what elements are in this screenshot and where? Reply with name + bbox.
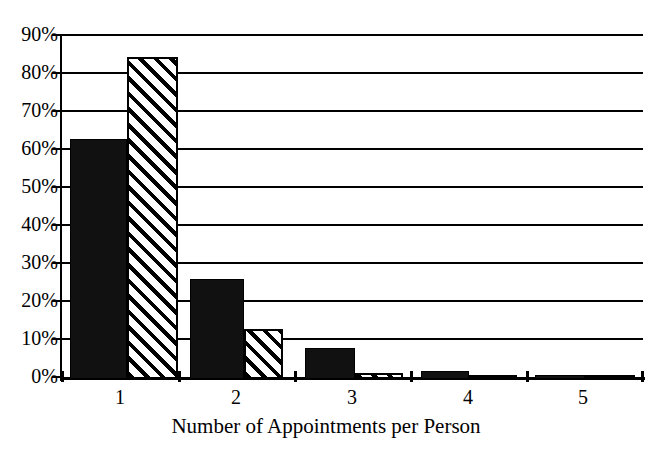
x-tick-label-3: 3: [322, 386, 382, 408]
x-tick-mark-2: [294, 371, 297, 382]
y-axis-labels: 90% 80% 70% 60% 50% 40% 30% 20% 10% 0%: [0, 0, 58, 456]
x-tick-mark-3: [410, 371, 413, 382]
x-tick-mark-4: [526, 371, 529, 382]
y-tick-label-80: 80%: [2, 62, 58, 82]
y-tick-label-30: 30%: [2, 252, 58, 272]
y-tick-label-10: 10%: [2, 328, 58, 348]
x-tick-label-2: 2: [206, 386, 266, 408]
bar-chart: 90% 80% 70% 60% 50% 40% 30% 20% 10% 0%: [0, 0, 652, 456]
bar-series1-cat1: [70, 139, 127, 379]
y-tick-label-70: 70%: [2, 100, 58, 120]
x-axis-title: Number of Appointments per Person: [0, 414, 652, 438]
y-tick-label-0: 0%: [2, 366, 58, 386]
bar-series1-cat5: [535, 375, 585, 379]
bar-series2-cat3: [355, 373, 403, 379]
bar-series1-cat2: [190, 279, 244, 379]
x-tick-label-5: 5: [553, 386, 613, 408]
bar-series2-cat4: [469, 375, 517, 379]
bar-series2-cat1: [127, 57, 178, 379]
y-tick-label-90: 90%: [2, 24, 58, 44]
x-tick-mark-0: [61, 371, 64, 382]
x-tick-label-4: 4: [438, 386, 498, 408]
gridline-90: [62, 34, 643, 36]
x-tick-mark-1: [178, 371, 181, 382]
x-tick-mark-5: [641, 371, 644, 382]
bar-series2-cat5: [585, 375, 635, 379]
scan-artifact: [0, 0, 652, 14]
bar-series1-cat3: [305, 348, 355, 379]
bar-series1-cat4: [421, 371, 469, 379]
bar-series2-cat2: [244, 329, 283, 379]
y-tick-label-60: 60%: [2, 138, 58, 158]
x-tick-label-1: 1: [90, 386, 150, 408]
y-tick-label-50: 50%: [2, 176, 58, 196]
plot-area: [62, 34, 643, 379]
y-tick-label-40: 40%: [2, 214, 58, 234]
y-tick-label-20: 20%: [2, 290, 58, 310]
